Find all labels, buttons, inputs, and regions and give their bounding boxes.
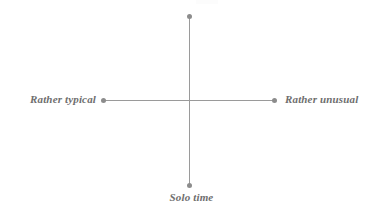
vertical-axis-line [189,16,190,185]
clipped-content-artifact [196,0,218,4]
right-endpoint-dot[interactable] [272,98,277,103]
diagram-canvas: Rather typical Rather unusual Solo time [0,0,384,211]
bottom-endpoint-dot[interactable] [187,183,192,188]
axis-label-left: Rather typical [30,94,96,105]
left-endpoint-dot[interactable] [101,98,106,103]
top-endpoint-dot[interactable] [187,14,192,19]
axis-label-bottom: Solo time [0,192,384,203]
axis-label-right: Rather unusual [285,94,358,105]
